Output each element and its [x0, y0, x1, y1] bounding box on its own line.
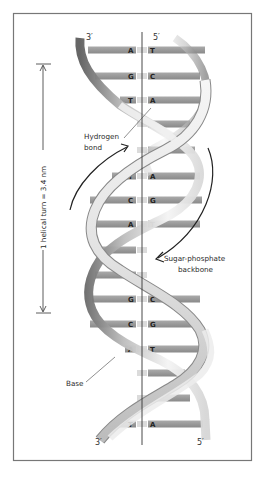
backbone-callout: Sugar-phosphate backbone [156, 148, 226, 274]
svg-text:Sugar-phosphate: Sugar-phosphate [164, 254, 226, 263]
base-letter-right: A [150, 421, 156, 429]
base-letter-right: T [150, 47, 155, 55]
base-letter-left: G [128, 73, 134, 81]
label-top-5prime: 5′ [153, 33, 160, 42]
label-bottom-5prime: 5′ [197, 438, 204, 447]
svg-text:Base: Base [66, 379, 84, 388]
base-letter-left: C [128, 321, 133, 329]
base-pair: GC [92, 296, 200, 304]
base-letter-left: T [128, 97, 133, 105]
dna-diagram-canvas: ATGCTATACGATGCCGATTA 3′ 5′ 3′ 5′ 1 [0, 0, 263, 480]
base-letter-left: G [128, 296, 134, 304]
helical-turn-measurement: 1 helical turn = 3.4 nm [36, 64, 51, 313]
base-callout: Base [66, 357, 115, 388]
svg-text:Hydrogen: Hydrogen [84, 132, 119, 141]
base-pair: GC [95, 73, 200, 81]
base-letter-right: G [150, 197, 156, 205]
base-letter-right: G [150, 321, 156, 329]
base-letter-left: A [128, 221, 134, 229]
base-letter-left: C [128, 197, 133, 205]
base-pair: TA [120, 97, 200, 105]
label-bottom-3prime: 3′ [95, 438, 102, 447]
base-letter-right: C [150, 73, 155, 81]
base-letter-left: A [128, 47, 134, 55]
label-top-3prime: 3′ [86, 33, 93, 42]
dna-diagram: ATGCTATACGATGCCGATTA 3′ 5′ 3′ 5′ 1 [0, 0, 263, 480]
svg-text:bond: bond [84, 143, 102, 152]
helical-turn-label: 1 helical turn = 3.4 nm [39, 166, 48, 249]
base-letter-right: A [150, 97, 156, 105]
svg-text:backbone: backbone [178, 265, 214, 274]
